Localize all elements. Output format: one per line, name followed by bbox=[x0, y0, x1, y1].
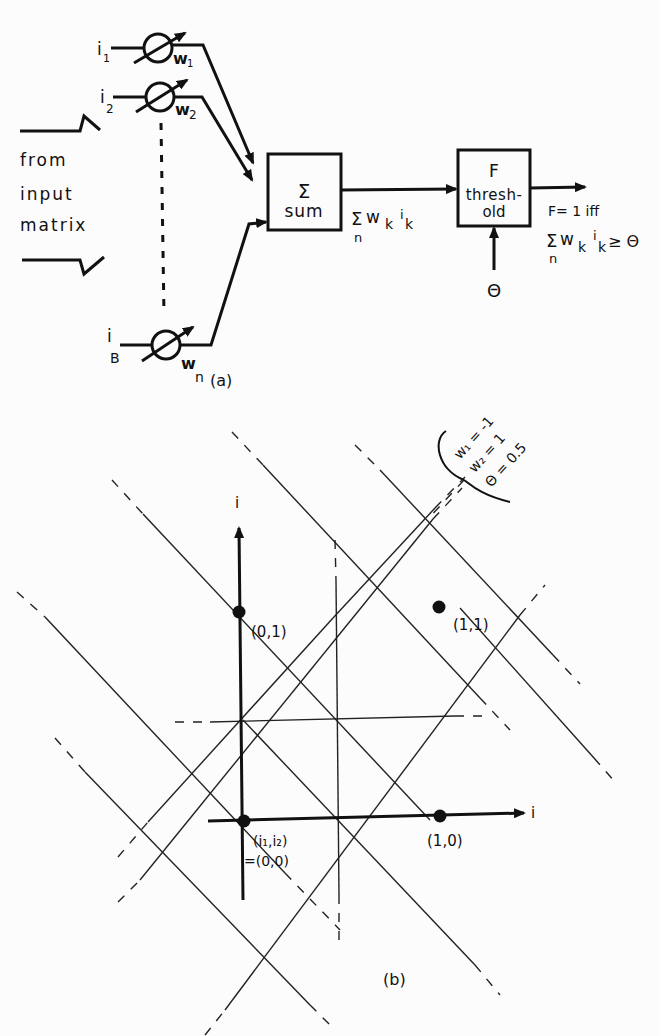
vertical-axis-label: i bbox=[235, 494, 239, 512]
svg-text:i: i bbox=[593, 228, 597, 243]
output-rule-label: F= 1 iff Σ w k i k ≥ Θ n bbox=[546, 203, 639, 266]
parameter-annotation: w₁ = -1 w₂ = 1 Θ = 0.5 bbox=[428, 411, 530, 519]
horizontal-axis-label: i bbox=[531, 804, 535, 822]
svg-text:k: k bbox=[405, 216, 414, 232]
sum-output-label: Σ w k i k n bbox=[351, 207, 414, 245]
svg-text:w: w bbox=[366, 207, 380, 227]
figure-a: from input matrix i 1 w 1 i 2 w 2 bbox=[20, 33, 639, 390]
svg-text:w: w bbox=[181, 354, 196, 373]
step-function-icon: F bbox=[489, 161, 499, 181]
figure-b-caption: (b) bbox=[383, 970, 406, 989]
point-0-0 bbox=[238, 815, 251, 828]
point-1-0 bbox=[434, 810, 447, 823]
svg-text:sum: sum bbox=[284, 201, 323, 221]
output-arrow bbox=[530, 187, 585, 188]
svg-text:≥ Θ: ≥ Θ bbox=[608, 232, 639, 251]
sum-to-threshold-arrow bbox=[341, 189, 456, 190]
input-matrix-bottom-break-icon bbox=[22, 257, 104, 274]
point-1-1 bbox=[433, 601, 446, 614]
input-matrix-top-break-icon bbox=[20, 116, 100, 131]
svg-text:Σ: Σ bbox=[298, 179, 311, 203]
svg-text:2: 2 bbox=[106, 102, 114, 116]
svg-text:Σ: Σ bbox=[546, 230, 557, 251]
svg-text:(1,0): (1,0) bbox=[427, 832, 463, 850]
svg-text:i: i bbox=[100, 87, 105, 107]
svg-text:n: n bbox=[195, 369, 204, 385]
threshold-box: F thresh- old bbox=[458, 150, 530, 226]
svg-text:k: k bbox=[385, 216, 394, 232]
weighted-input-n: i B w n bbox=[107, 222, 266, 385]
point-0-1 bbox=[233, 606, 246, 619]
svg-text:k: k bbox=[578, 239, 587, 255]
svg-text:w: w bbox=[175, 100, 190, 119]
svg-text:F= 1 iff: F= 1 iff bbox=[548, 203, 599, 219]
figure-a-caption: (a) bbox=[210, 371, 232, 390]
diagram-canvas: from input matrix i 1 w 1 i 2 w 2 bbox=[0, 0, 660, 1036]
svg-text:k: k bbox=[598, 239, 607, 255]
svg-text:w: w bbox=[173, 49, 188, 68]
vertical-axis bbox=[239, 528, 243, 900]
ellipsis-dashes bbox=[161, 123, 164, 315]
svg-text:w: w bbox=[560, 229, 574, 249]
svg-text:(0,1): (0,1) bbox=[251, 623, 287, 641]
from-input-matrix-label-1: from bbox=[20, 150, 68, 170]
figure-b: i i (0,1) (1,1) (1,0) (i₁,i₂) =(0,0) w₁ … bbox=[17, 360, 615, 1035]
svg-text:thresh-: thresh- bbox=[466, 186, 523, 204]
theta-input-label: Θ bbox=[487, 280, 501, 301]
svg-text:Σ: Σ bbox=[351, 208, 362, 229]
svg-text:old: old bbox=[483, 203, 506, 221]
horizontal-axis bbox=[208, 813, 524, 821]
svg-text:i: i bbox=[400, 207, 404, 222]
svg-text:1: 1 bbox=[103, 52, 110, 65]
svg-text:B: B bbox=[110, 350, 120, 366]
svg-text:(i₁,i₂): (i₁,i₂) bbox=[253, 833, 287, 849]
sum-box: Σ sum bbox=[268, 154, 341, 230]
svg-text:n: n bbox=[549, 251, 557, 266]
svg-text:i: i bbox=[97, 39, 102, 59]
svg-text:=(0,0): =(0,0) bbox=[244, 853, 289, 869]
weighted-input-2: i 2 w 2 bbox=[100, 80, 252, 180]
svg-text:(1,1): (1,1) bbox=[453, 616, 489, 634]
svg-text:n: n bbox=[354, 230, 362, 245]
svg-text:i: i bbox=[107, 326, 112, 346]
from-input-matrix-label-2: input bbox=[20, 184, 74, 204]
from-input-matrix-label-3: matrix bbox=[20, 215, 87, 235]
svg-text:2: 2 bbox=[189, 108, 197, 122]
svg-text:1: 1 bbox=[187, 58, 193, 69]
